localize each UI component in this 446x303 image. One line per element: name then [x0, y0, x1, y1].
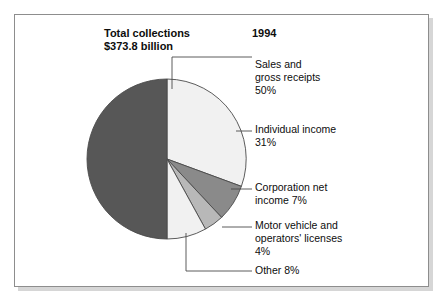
label-corporation-net-income: Corporation net income 7%: [255, 181, 327, 207]
year-label: 1994: [252, 27, 276, 40]
label-individual-income: Individual income 31%: [255, 123, 336, 149]
leader-line-other: [186, 233, 252, 271]
pie-slice-sales-gross-receipts: [87, 79, 167, 239]
total-collections-title: Total collections $373.8 billion: [104, 27, 190, 53]
pie-chart-graphic: [0, 0, 446, 303]
label-other: Other 8%: [255, 264, 299, 277]
label-motor-vehicle-licenses: Motor vehicle and operators' licenses 4%: [255, 219, 342, 258]
label-sales-gross-receipts: Sales and gross receipts 50%: [255, 58, 320, 97]
screenshot-root: Total collections $373.8 billion 1994 Sa…: [0, 0, 446, 303]
